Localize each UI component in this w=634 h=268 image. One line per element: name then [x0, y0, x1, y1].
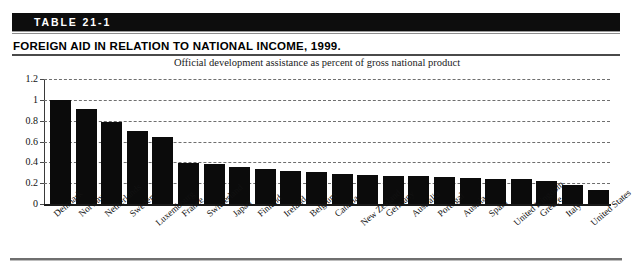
- x-axis-tick-label: United States: [589, 188, 633, 228]
- x-axis-tick-label: Belgium: [307, 190, 338, 219]
- x-axis-tick-label: Spain: [486, 197, 509, 218]
- divider-bottom-shadow: [10, 260, 622, 261]
- x-axis-tick-label: Ireland: [282, 194, 308, 219]
- x-axis-tick-label: Japan: [230, 197, 253, 218]
- x-axis-tick-label: Italy: [563, 200, 582, 219]
- x-axis-tick-label: Finland: [256, 193, 284, 219]
- table-figure: TABLE 21-1 FOREIGN AID IN RELATION TO NA…: [0, 0, 634, 268]
- x-axis-labels: DenmarkNorwayNetherlandsSwedenLuxembourg…: [0, 0, 634, 268]
